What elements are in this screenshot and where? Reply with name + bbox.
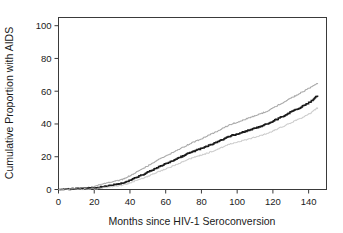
figure-container: 020406080100120140 020406080100 Months s… [0,0,343,233]
y-axis-title: Cumulative Proportion with AIDS [3,27,15,179]
x-tick-label: 60 [160,196,171,207]
y-tick-label: 100 [36,20,52,31]
x-tick-label: 40 [125,196,136,207]
y-tick-label: 40 [41,118,52,129]
x-tick-label: 20 [89,196,100,207]
x-axis-title: Months since HIV-1 Seroconversion [109,215,276,227]
y-tick-label: 20 [41,151,52,162]
cumulative-incidence-chart: 020406080100120140 020406080100 Months s… [0,0,343,233]
chart-background [0,0,343,233]
y-tick-label: 0 [46,184,51,195]
x-tick-label: 80 [196,196,207,207]
x-tick-label: 140 [301,196,317,207]
y-tick-label: 60 [41,86,52,97]
y-tick-label: 80 [41,53,52,64]
x-tick-label: 120 [265,196,281,207]
x-tick-label: 0 [56,196,61,207]
x-tick-label: 100 [229,196,245,207]
